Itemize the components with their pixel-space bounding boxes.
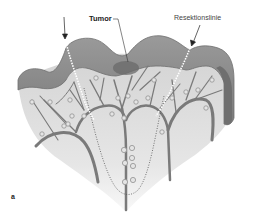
right-arrow-head — [191, 40, 196, 46]
diagram-illustration — [0, 0, 254, 214]
tumor — [113, 61, 139, 75]
resection-line-label: Resektionslinie — [174, 14, 221, 21]
panel-label: a — [11, 193, 15, 200]
left-arrow-head — [63, 34, 68, 39]
right-arrow-line — [193, 25, 200, 43]
colon-resection-diagram: Tumor Resektionslinie a — [0, 0, 254, 214]
left-arrow-line — [64, 17, 65, 36]
tumor-label: Tumor — [89, 14, 112, 23]
